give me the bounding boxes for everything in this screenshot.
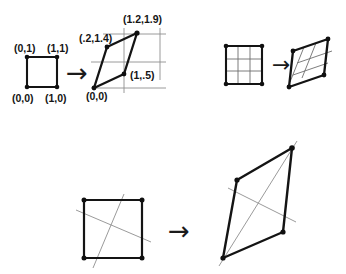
vertex-1-1 bbox=[55, 55, 60, 60]
transformation-figure: (0,1) (1,1) (0,0) (1,0) → (1.2,1.9) (.2,… bbox=[0, 0, 346, 274]
label-image-02-14: (.2,1.4) bbox=[79, 32, 112, 44]
sheared-grid-vertex-tr bbox=[326, 37, 331, 42]
label-image-12-19: (1.2,1.9) bbox=[123, 13, 162, 25]
grid-square-vertex-bl bbox=[224, 82, 229, 87]
parallelogram-vertex-r bbox=[280, 229, 285, 234]
arrow-grid: → bbox=[272, 52, 290, 77]
square-vertex-tl bbox=[82, 198, 87, 203]
label-image-1-05: (1,.5) bbox=[130, 69, 155, 81]
grid-square-vertex-tl bbox=[224, 44, 229, 49]
label-0-1: (0,1) bbox=[14, 42, 36, 54]
label-image-0-0: (0,0) bbox=[86, 90, 108, 102]
arrow-coordinates: → bbox=[66, 58, 88, 88]
square-vertex-bl bbox=[82, 256, 87, 261]
vertex-image-1-05 bbox=[122, 72, 127, 77]
label-1-1: (1,1) bbox=[47, 42, 69, 54]
parallelogram-vertex-tr bbox=[289, 145, 295, 151]
grid-square-vertex-br bbox=[260, 82, 265, 87]
vertex-image-02-14 bbox=[105, 45, 110, 50]
label-1-0: (1,0) bbox=[45, 92, 67, 104]
sheared-grid-vertex-tl bbox=[291, 49, 296, 54]
vertex-1-0 bbox=[55, 85, 60, 90]
label-0-0: (0,0) bbox=[12, 92, 34, 104]
sheared-grid-vertex-bl bbox=[287, 85, 292, 90]
grid-square-vertex-tr bbox=[260, 44, 265, 49]
parallelogram-vertex-bl bbox=[220, 255, 225, 260]
parallelogram-vertex-l bbox=[234, 177, 239, 182]
vertex-0-1 bbox=[25, 55, 30, 60]
arrow-lines: → bbox=[168, 216, 190, 246]
sheared-grid-vertex-br bbox=[322, 73, 327, 78]
square-vertex-tr bbox=[140, 198, 145, 203]
square-vertex-br bbox=[140, 256, 145, 261]
vertex-0-0 bbox=[25, 85, 30, 90]
vertex-image-12-19 bbox=[134, 30, 139, 35]
